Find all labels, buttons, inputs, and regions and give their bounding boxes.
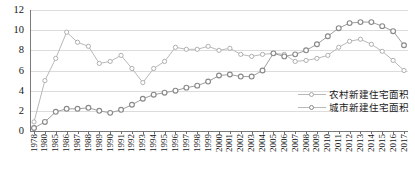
- x-tick-label: 2010: [323, 134, 332, 152]
- data-point: [358, 37, 362, 41]
- y-tick-label: 6: [0, 66, 24, 76]
- data-point: [238, 74, 243, 79]
- data-point: [315, 42, 320, 47]
- data-point: [347, 39, 351, 43]
- data-point: [184, 47, 188, 51]
- y-tick-label: 12: [0, 5, 24, 15]
- data-point: [206, 44, 210, 48]
- x-tick-label: 1995: [160, 134, 169, 152]
- data-point: [173, 88, 178, 93]
- data-point: [32, 126, 37, 131]
- y-tick-label: 10: [0, 25, 24, 35]
- data-point: [304, 58, 308, 62]
- data-point: [391, 58, 395, 62]
- x-tick-label: 2006: [280, 134, 289, 152]
- data-point: [239, 52, 243, 56]
- data-point: [75, 106, 80, 111]
- x-tick-label: 1987: [73, 134, 82, 152]
- data-point: [304, 48, 309, 53]
- data-point: [260, 52, 264, 56]
- x-tick-label: 2009: [312, 134, 321, 152]
- data-point: [86, 105, 91, 110]
- x-tick-label: 2005: [269, 134, 278, 152]
- x-tick-label: 1994: [149, 134, 158, 152]
- data-point: [228, 46, 232, 50]
- data-point: [206, 79, 211, 84]
- data-point: [43, 78, 47, 82]
- data-point: [97, 61, 101, 65]
- x-tick-label: 1998: [193, 134, 202, 152]
- x-tick-label: 2003: [247, 134, 256, 152]
- x-tick-label: 1997: [182, 134, 191, 152]
- data-point: [271, 51, 276, 56]
- data-point: [53, 109, 58, 114]
- data-point: [32, 120, 36, 124]
- data-point: [249, 74, 254, 79]
- data-point: [64, 106, 69, 111]
- x-tick-label: 2016: [389, 134, 398, 152]
- data-point: [184, 85, 189, 90]
- data-point: [173, 45, 177, 49]
- data-point: [97, 108, 102, 113]
- chart-figure: 024681012 197819801985198619871988198919…: [0, 0, 415, 174]
- data-point: [217, 48, 221, 52]
- x-tick-label: 2015: [378, 134, 387, 152]
- data-point: [260, 68, 265, 73]
- data-point: [347, 21, 352, 26]
- data-point: [336, 26, 341, 31]
- data-point: [195, 83, 200, 88]
- y-tick-label: 4: [0, 86, 24, 96]
- legend-item-urban: 城市新建住宅面积: [298, 101, 409, 114]
- x-tick-label: 2004: [258, 134, 267, 152]
- x-tick-label: 1989: [95, 134, 104, 152]
- x-tick-label: 2002: [236, 134, 245, 152]
- data-point: [326, 53, 330, 57]
- data-point: [119, 107, 124, 112]
- data-point: [402, 43, 407, 48]
- data-point: [141, 81, 145, 85]
- data-point: [282, 54, 287, 59]
- data-point: [380, 49, 384, 53]
- data-point: [227, 72, 232, 77]
- data-point: [250, 54, 254, 58]
- legend-label-rural: 农村新建住宅面积: [329, 88, 409, 101]
- data-point: [162, 90, 167, 95]
- data-point: [65, 30, 69, 34]
- data-point: [86, 44, 90, 48]
- x-tick-label: 1996: [171, 134, 180, 152]
- data-point: [42, 120, 47, 125]
- legend-item-rural: 农村新建住宅面积: [298, 88, 409, 101]
- data-point: [217, 73, 222, 78]
- data-point: [195, 47, 199, 51]
- data-point: [130, 102, 135, 107]
- data-point: [380, 24, 385, 29]
- x-tick-label: 2012: [345, 134, 354, 152]
- legend-marker-rural-icon: [298, 90, 326, 99]
- data-point: [151, 92, 156, 97]
- data-point: [369, 20, 374, 25]
- y-axis: [30, 10, 31, 131]
- x-tick-label: 2011: [334, 134, 343, 152]
- data-point: [315, 56, 319, 60]
- y-tick-label: 0: [0, 126, 24, 136]
- chart-legend: 农村新建住宅面积 城市新建住宅面积: [298, 88, 409, 114]
- data-point: [140, 96, 145, 101]
- y-tick-label: 2: [0, 106, 24, 116]
- x-tick-label: 1980: [40, 134, 49, 152]
- data-point: [402, 68, 406, 72]
- x-tick-label: 2017: [400, 134, 409, 152]
- x-tick-label: 1990: [106, 134, 115, 152]
- data-point: [369, 42, 373, 46]
- x-tick-label: 1988: [84, 134, 93, 152]
- x-tick-label: 2008: [302, 134, 311, 152]
- data-point: [54, 56, 58, 60]
- y-tick-label: 8: [0, 45, 24, 55]
- data-point: [337, 45, 341, 49]
- data-point: [325, 34, 330, 39]
- x-tick-label: 1986: [62, 134, 71, 152]
- legend-label-urban: 城市新建住宅面积: [329, 101, 409, 114]
- x-tick-label: 1999: [204, 134, 213, 152]
- data-point: [108, 110, 113, 115]
- data-point: [162, 59, 166, 63]
- data-point: [130, 66, 134, 70]
